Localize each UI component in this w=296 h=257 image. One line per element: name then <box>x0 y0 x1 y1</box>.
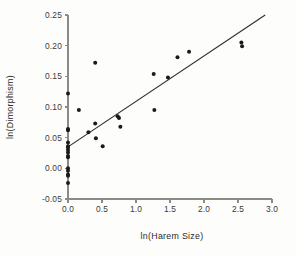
data-point <box>66 150 70 154</box>
data-point <box>66 181 70 185</box>
data-point <box>77 108 81 112</box>
tick-labels-group: -0.050.000.050.100.150.200.250.00.51.01.… <box>42 10 278 214</box>
x-tick-label: 2.0 <box>198 204 210 214</box>
y-tick-label: 0.00 <box>45 163 62 173</box>
data-point <box>66 174 70 178</box>
data-point <box>66 141 70 145</box>
plot-canvas: -0.050.000.050.100.150.200.250.00.51.01.… <box>0 0 296 257</box>
data-point <box>117 116 121 120</box>
y-axis-title: ln(Dimorphism) <box>5 75 15 139</box>
data-point <box>66 92 70 96</box>
scatter-plot-figure: -0.050.000.050.100.150.200.250.00.51.01.… <box>0 0 296 257</box>
data-point <box>93 122 97 126</box>
data-point <box>66 169 70 173</box>
data-point <box>152 108 156 112</box>
data-point <box>187 50 191 54</box>
y-tick-label: 0.15 <box>45 71 62 81</box>
x-tick-label: 0.0 <box>62 204 74 214</box>
x-tick-label: 3.0 <box>266 204 278 214</box>
data-point <box>166 76 170 80</box>
data-point <box>175 55 179 59</box>
regression-line-group <box>68 15 265 147</box>
x-tick-label: 0.5 <box>96 204 108 214</box>
y-tick-label: -0.05 <box>42 194 62 204</box>
data-point <box>86 130 90 134</box>
data-point <box>94 136 98 140</box>
data-point <box>240 44 244 48</box>
data-point <box>66 155 70 159</box>
x-tick-label: 1.5 <box>164 204 176 214</box>
y-tick-label: 0.20 <box>45 41 62 51</box>
x-tick-label: 2.5 <box>232 204 244 214</box>
y-tick-label: 0.05 <box>45 133 62 143</box>
data-point <box>101 144 105 148</box>
data-point <box>152 72 156 76</box>
data-point <box>93 61 97 65</box>
x-tick-label: 1.0 <box>130 204 142 214</box>
data-points-group <box>66 41 244 185</box>
data-point <box>66 128 70 132</box>
y-tick-label: 0.25 <box>45 10 62 20</box>
data-point <box>118 125 122 129</box>
x-axis-title: ln(Harem Size) <box>141 231 204 241</box>
regression-line <box>68 15 265 147</box>
data-point <box>239 41 243 45</box>
y-tick-label: 0.10 <box>45 102 62 112</box>
